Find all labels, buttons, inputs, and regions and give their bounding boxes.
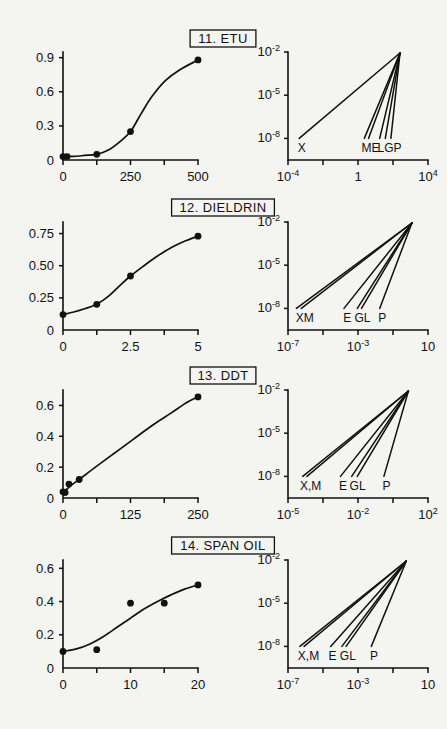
log-extrapolation-etu-xtick-label-text: 1 (354, 169, 361, 184)
log-extrapolation-dieldrin-ray-label: P (378, 311, 386, 325)
log-extrapolation-etu-xtick-label: 1 (354, 169, 361, 184)
log-extrapolation-ddt-ray-P (384, 391, 409, 476)
log-extrapolation-dieldrin-ray-label: E (343, 311, 351, 325)
dose-response-span-oil-axes (63, 560, 198, 668)
log-extrapolation-ddt-ray-L (357, 391, 408, 476)
log-extrapolation-etu-ytick-label: 10-2 (258, 43, 280, 59)
log-extrapolation-etu-xtick-label-text: 10-4 (277, 168, 299, 184)
dose-response-etu-data-point (195, 57, 202, 64)
dose-response-dieldrin-data-point (127, 273, 134, 280)
log-extrapolation-span-oil-ytick-label-text: 10-2 (258, 551, 280, 567)
figure-canvas: 11. ETU00.30.60.9025050010-210-510-810-4… (0, 0, 447, 729)
log-extrapolation-span-oil-ray-label: GL (340, 649, 356, 663)
log-extrapolation-etu-ytick-label-text: 10-2 (258, 43, 280, 59)
log-extrapolation-ddt-xtick-label: 102 (418, 506, 437, 522)
log-extrapolation-ddt-ray-E (341, 391, 409, 476)
log-extrapolation-ddt: 10-210-510-810-510-2102X,MEGLP (258, 381, 438, 522)
log-extrapolation-dieldrin-ytick-label: 10-5 (258, 256, 280, 272)
log-extrapolation-dieldrin-ray-label: XM (296, 311, 314, 325)
log-extrapolation-span-oil-ytick-label: 10-5 (258, 594, 280, 610)
log-extrapolation-span-oil-ytick-label: 10-8 (258, 637, 280, 653)
dose-response-span-oil-ytick-label: 0.6 (36, 561, 54, 576)
dose-response-etu: 00.30.60.90250500 (36, 50, 209, 184)
dose-response-span-oil-ytick-label: 0 (47, 661, 54, 676)
log-extrapolation-ddt-xtick-label-text: 10-2 (347, 506, 369, 522)
dose-response-ddt-ytick-label: 0.2 (36, 460, 54, 475)
row-dieldrin: 12. DIELDRIN00.250.500.7502.5510-210-510… (29, 199, 436, 354)
figure-svg: 11. ETU00.30.60.9025050010-210-510-810-4… (0, 0, 447, 729)
dose-response-etu-xtick-label: 500 (187, 169, 209, 184)
row-etu: 11. ETU00.30.60.9025050010-210-510-810-4… (36, 30, 438, 184)
row-ddt-title: 13. DDT (197, 368, 248, 383)
dose-response-etu-ytick-label: 0.6 (36, 84, 54, 99)
dose-response-etu-data-point (64, 153, 71, 160)
log-extrapolation-dieldrin-ray-label: GL (355, 311, 371, 325)
log-extrapolation-etu-ytick-label-text: 10-5 (258, 86, 280, 102)
dose-response-dieldrin-data-point (93, 301, 100, 308)
log-extrapolation-span-oil-xtick-label: 10-7 (277, 676, 299, 692)
log-extrapolation-span-oil-xtick-label-text: 10-3 (347, 676, 369, 692)
dose-response-span-oil-fit-curve (63, 585, 198, 651)
row-dieldrin-title: 12. DIELDRIN (179, 200, 266, 215)
dose-response-etu-data-point (127, 128, 134, 135)
log-extrapolation-etu-ytick-label-text: 10-8 (258, 129, 280, 145)
log-extrapolation-etu-ray-label: X (298, 141, 306, 155)
dose-response-ddt-xtick-label: 250 (187, 507, 209, 522)
dose-response-ddt: 00.20.40.60125250 (36, 390, 209, 522)
dose-response-dieldrin-data-point (195, 233, 202, 240)
dose-response-dieldrin-data-point (60, 311, 67, 318)
log-extrapolation-ddt-ytick-label-text: 10-2 (258, 381, 280, 397)
log-extrapolation-etu-xtick-label: 104 (418, 168, 437, 184)
log-extrapolation-etu-ray-label: LGP (378, 141, 402, 155)
log-extrapolation-ddt-ytick-label: 10-5 (258, 424, 280, 440)
log-extrapolation-dieldrin-xtick-label: 10 (421, 339, 435, 354)
log-extrapolation-ddt-ytick-label: 10-2 (258, 381, 280, 397)
dose-response-ddt-fit-curve (63, 397, 198, 492)
dose-response-ddt-data-point (195, 394, 202, 401)
log-extrapolation-span-oil: 10-210-510-810-710-310X,MEGLP (258, 551, 436, 692)
dose-response-span-oil-data-point (161, 600, 168, 607)
log-extrapolation-ddt-ytick-label-text: 10-5 (258, 424, 280, 440)
dose-response-etu-data-point (93, 151, 100, 158)
log-extrapolation-dieldrin-ytick-label-text: 10-8 (258, 299, 280, 315)
log-extrapolation-span-oil-ray-label: X,M (298, 649, 319, 663)
log-extrapolation-dieldrin-xtick-label: 10-7 (277, 338, 299, 354)
log-extrapolation-etu: 10-210-510-810-41104XMELGP (258, 43, 438, 184)
dose-response-ddt-data-point (66, 481, 73, 488)
log-extrapolation-ddt-ray-label: P (383, 479, 391, 493)
log-extrapolation-etu-ytick-label: 10-5 (258, 86, 280, 102)
dose-response-span-oil-ytick-label: 0.4 (36, 594, 54, 609)
dose-response-span-oil: 00.20.40.601020 (36, 560, 205, 692)
dose-response-span-oil-ytick-label: 0.2 (36, 627, 54, 642)
dose-response-span-oil-xtick-label: 20 (191, 677, 205, 692)
log-extrapolation-dieldrin-ray-L (362, 223, 412, 308)
dose-response-dieldrin-xtick-label: 2.5 (121, 339, 139, 354)
log-extrapolation-span-oil-ytick-label: 10-2 (258, 551, 280, 567)
log-extrapolation-ddt-xtick-label-text: 10-5 (277, 506, 299, 522)
log-extrapolation-span-oil-ray-label: E (329, 649, 337, 663)
dose-response-span-oil-data-point (60, 648, 67, 655)
dose-response-dieldrin-xtick-label: 5 (194, 339, 201, 354)
dose-response-ddt-ytick-label: 0.6 (36, 398, 54, 413)
log-extrapolation-span-oil-xtick-label: 10 (421, 677, 435, 692)
log-extrapolation-span-oil-ray-E (331, 561, 407, 646)
log-extrapolation-span-oil-xtick-label-text: 10 (421, 677, 435, 692)
log-extrapolation-dieldrin-ytick-label: 10-2 (258, 213, 280, 229)
dose-response-ddt-axes (63, 390, 198, 498)
log-extrapolation-ddt-ray-M (307, 391, 409, 476)
log-extrapolation-etu-xtick-label: 10-4 (277, 168, 299, 184)
dose-response-span-oil-xtick-label: 10 (123, 677, 137, 692)
log-extrapolation-dieldrin-xtick-label-text: 10-3 (347, 338, 369, 354)
dose-response-ddt-ytick-label: 0.4 (36, 429, 54, 444)
log-extrapolation-ddt-ray-label: GL (350, 479, 366, 493)
log-extrapolation-ddt-xtick-label-text: 102 (418, 506, 437, 522)
dose-response-span-oil-xtick-label: 0 (59, 677, 66, 692)
log-extrapolation-dieldrin-ytick-label-text: 10-5 (258, 256, 280, 272)
dose-response-dieldrin-ytick-label: 0 (47, 323, 54, 338)
log-extrapolation-etu-xtick-label-text: 104 (418, 168, 437, 184)
log-extrapolation-span-oil-xtick-label: 10-3 (347, 676, 369, 692)
dose-response-etu-xtick-label: 0 (59, 169, 66, 184)
log-extrapolation-span-oil-ray-label: P (370, 649, 378, 663)
dose-response-dieldrin-ytick-label: 0.25 (29, 290, 54, 305)
dose-response-span-oil-data-point (127, 600, 134, 607)
